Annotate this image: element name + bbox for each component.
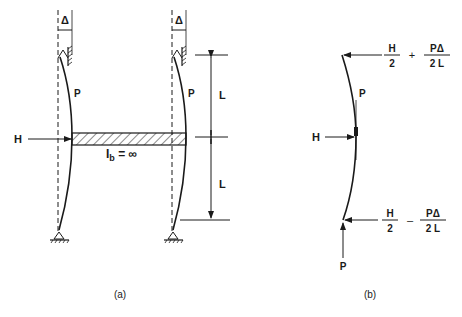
panel-a: Δ P bbox=[14, 10, 230, 300]
svg-text:PΔ: PΔ bbox=[430, 43, 444, 54]
right-column: Δ P bbox=[164, 10, 195, 243]
beam-stiffness-label: Ib = ∞ bbox=[106, 147, 137, 163]
right-axial-load-label: P bbox=[188, 88, 195, 99]
left-pin-support-icon bbox=[50, 232, 69, 243]
left-column: Δ P bbox=[50, 10, 81, 243]
top-axial-load-label: P bbox=[359, 88, 366, 99]
horizontal-load-label-b: H bbox=[312, 131, 320, 143]
right-delta-label: Δ bbox=[175, 14, 183, 26]
right-pin-support-icon bbox=[164, 232, 183, 243]
upper-span-label: L bbox=[219, 89, 226, 101]
bottom-reaction-expression: H 2 – PΔ 2 L bbox=[382, 208, 446, 234]
horizontal-load-label: H bbox=[14, 133, 22, 145]
panel-b: P H H 2 + PΔ 2 L H 2 – PΔ 2 L P (b) bbox=[312, 43, 450, 300]
svg-text:H: H bbox=[386, 208, 393, 219]
svg-text:H: H bbox=[388, 43, 395, 54]
rigid-beam bbox=[72, 133, 186, 145]
right-top-support-icon bbox=[172, 46, 186, 66]
svg-text:2 L: 2 L bbox=[426, 223, 440, 234]
svg-text:2: 2 bbox=[387, 223, 393, 234]
top-reaction-expression: H 2 + PΔ 2 L bbox=[384, 43, 450, 69]
left-column-deflected bbox=[59, 57, 72, 230]
lower-span-label: L bbox=[219, 178, 226, 190]
svg-text:+: + bbox=[409, 49, 415, 61]
left-axial-load-label: P bbox=[74, 88, 81, 99]
svg-text:2: 2 bbox=[389, 58, 395, 69]
caption-a: (a) bbox=[114, 289, 126, 300]
joint-marker bbox=[354, 127, 358, 136]
left-top-support-icon bbox=[58, 46, 72, 66]
height-dimension bbox=[180, 55, 230, 220]
bottom-axial-load-label: P bbox=[340, 261, 347, 272]
svg-text:–: – bbox=[407, 214, 414, 226]
caption-b: (b) bbox=[364, 289, 376, 300]
svg-text:2 L: 2 L bbox=[430, 58, 444, 69]
left-delta-label: Δ bbox=[61, 14, 69, 26]
svg-text:PΔ: PΔ bbox=[426, 208, 440, 219]
frame-diagram: Δ P bbox=[0, 0, 462, 317]
